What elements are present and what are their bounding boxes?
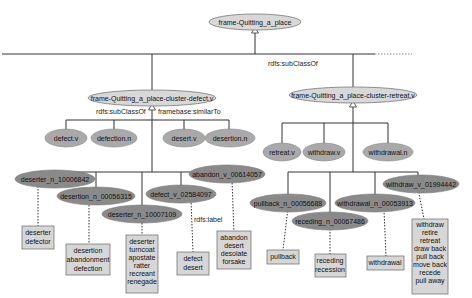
svg-text:apostate: apostate: [129, 254, 156, 262]
svg-text:desertion_n_00056315: desertion_n_00056315: [60, 193, 132, 201]
lexical-unit-desertion-n[interactable]: desertion.n: [205, 129, 255, 147]
svg-text:desolate: desolate: [221, 250, 248, 257]
svg-text:retire: retire: [422, 229, 438, 236]
lemma-box-defect-desert: defect desert: [177, 252, 209, 275]
svg-text:deserter: deserter: [129, 238, 155, 245]
lemma-box-pullback: pullback: [267, 250, 299, 264]
svg-text:turncoat: turncoat: [129, 246, 154, 253]
cluster-defect-label: frame-Quitting_a_place-cluster-defect.v: [91, 95, 214, 103]
lexical-unit-defection-n[interactable]: defection.n: [91, 129, 137, 147]
ontology-diagram: rdfs:subClassOf frame-Quitting_a_place r…: [0, 0, 472, 298]
svg-text:recreant: recreant: [129, 270, 155, 277]
root-frame-node[interactable]: frame-Quitting_a_place: [209, 14, 301, 30]
lemma-box-withdrawal: withdrawal: [367, 256, 404, 270]
svg-text:desertion: desertion: [74, 247, 103, 254]
synset-deserter-n-10006842[interactable]: deserter_n_10006842: [15, 170, 95, 188]
root-frame-label: frame-Quitting_a_place: [219, 19, 292, 27]
lemma-box-abandon: abandon desert desolate forsake: [217, 231, 251, 269]
svg-text:recede: recede: [419, 269, 441, 276]
lemma-box-receding-recession: receding recession: [315, 254, 346, 277]
synset-withdrawal-n-00053913[interactable]: withdrawal_n_00053913: [335, 194, 415, 212]
subclassof-label-left: rdfs:subClassOf: [96, 108, 146, 115]
svg-text:abandon_v_00614057: abandon_v_00614057: [192, 171, 262, 179]
svg-text:retreat.v: retreat.v: [269, 149, 295, 156]
svg-text:defector: defector: [25, 238, 51, 245]
svg-text:withdrawal: withdrawal: [367, 259, 402, 266]
synset-withdraw-v-01994442[interactable]: withdraw_v_01994442: [383, 175, 459, 193]
synset-defect-v-02584097[interactable]: defect_v_02584097: [146, 185, 216, 203]
svg-text:forsake: forsake: [223, 258, 246, 265]
lemma-box-deserter-turncoat: deserter turncoat apostate ratter recrea…: [126, 235, 158, 293]
svg-text:deserter_n_10007109: deserter_n_10007109: [108, 211, 177, 219]
svg-text:abandonment: abandonment: [67, 256, 110, 263]
svg-text:withdrawal_n_00053913: withdrawal_n_00053913: [336, 200, 413, 208]
svg-text:withdrawal.n: withdrawal.n: [368, 149, 408, 156]
similarto-label: framebase:similarTo: [158, 108, 221, 115]
subclassof-label-right: rdfs:subClassOf: [268, 60, 318, 67]
cluster-retreat-node[interactable]: frame-Quitting_a_place-cluster-retreat.v: [289, 87, 417, 103]
svg-text:recession: recession: [315, 266, 345, 273]
rdfs-label-label: rdfs:label: [194, 216, 223, 223]
synset-desertion-n-00056315[interactable]: desertion_n_00056315: [57, 187, 135, 205]
synset-pullback-n-00056688[interactable]: pullback_n_00056688: [250, 194, 326, 212]
lexical-unit-withdraw-v[interactable]: withdraw.v: [303, 143, 345, 161]
svg-text:pull away: pull away: [415, 277, 445, 285]
lexical-unit-withdrawal-n[interactable]: withdrawal.n: [363, 143, 413, 161]
svg-text:defect: defect: [183, 255, 202, 262]
svg-text:desert.v: desert.v: [172, 135, 197, 142]
svg-text:move back: move back: [413, 261, 447, 268]
svg-text:defect.v: defect.v: [54, 135, 79, 142]
svg-text:defect_v_02584097: defect_v_02584097: [150, 191, 212, 199]
lemma-box-deserter-defector: deserter defector: [22, 226, 54, 249]
cluster-defect-node[interactable]: frame-Quitting_a_place-cluster-defect.v: [88, 90, 216, 106]
svg-text:draw back: draw back: [414, 245, 446, 252]
synset-deserter-n-10007109[interactable]: deserter_n_10007109: [102, 205, 182, 223]
svg-text:desertion.n: desertion.n: [213, 135, 248, 142]
svg-text:pullback: pullback: [270, 253, 296, 261]
lexical-unit-defect-v[interactable]: defect.v: [45, 129, 87, 147]
svg-text:receding: receding: [317, 257, 344, 265]
lemma-box-desertion: desertion abandonment defection: [66, 244, 110, 275]
svg-text:defection.n: defection.n: [97, 135, 131, 142]
svg-text:deserter: deserter: [25, 229, 51, 236]
svg-text:pull back: pull back: [416, 253, 444, 261]
svg-text:desert: desert: [224, 242, 244, 249]
lemma-box-withdraw-retire: withdraw retire retreat draw back pull b…: [412, 219, 448, 294]
svg-text:withdraw: withdraw: [415, 221, 445, 228]
svg-text:deserter_n_10006842: deserter_n_10006842: [21, 176, 90, 184]
svg-text:renegade: renegade: [127, 278, 157, 286]
svg-text:abandon: abandon: [220, 234, 247, 241]
lexical-unit-retreat-v[interactable]: retreat.v: [263, 143, 301, 161]
cluster-retreat-label: frame-Quitting_a_place-cluster-retreat.v: [291, 92, 415, 100]
svg-text:retreat: retreat: [420, 237, 440, 244]
svg-text:withdraw.v: withdraw.v: [307, 149, 341, 156]
svg-text:receding_n_00067486: receding_n_00067486: [295, 218, 365, 226]
svg-text:desert: desert: [183, 264, 203, 271]
svg-text:ratter: ratter: [134, 262, 151, 269]
synset-abandon-v-00614057[interactable]: abandon_v_00614057: [189, 165, 265, 183]
svg-text:pullback_n_00056688: pullback_n_00056688: [254, 200, 323, 208]
svg-text:withdraw_v_01994442: withdraw_v_01994442: [385, 181, 456, 189]
lexical-unit-desert-v[interactable]: desert.v: [163, 129, 205, 147]
svg-text:defection: defection: [74, 265, 103, 272]
synset-receding-n-00067486[interactable]: receding_n_00067486: [292, 212, 368, 230]
